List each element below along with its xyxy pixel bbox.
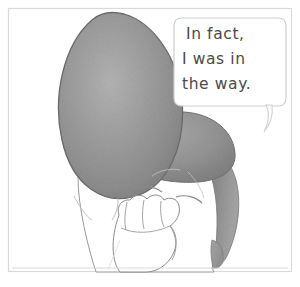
- hand-shape: [113, 195, 179, 272]
- speech-bubble-tail: [264, 105, 272, 132]
- comic-artwork: [0, 0, 300, 287]
- comic-panel: In fact, I was in the way.: [0, 0, 300, 287]
- speech-bubble-body[interactable]: [174, 18, 286, 106]
